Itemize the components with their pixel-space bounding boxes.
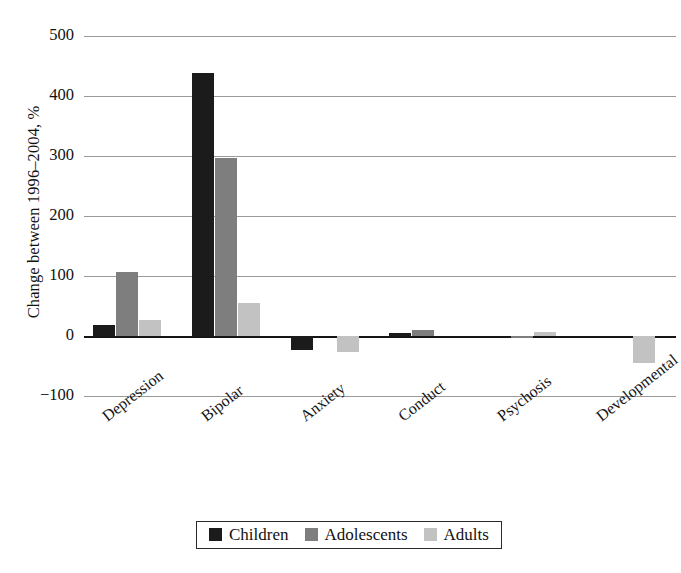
- bar-depression-children: [93, 325, 115, 336]
- y-tick-label: 300: [22, 147, 74, 164]
- bar-psychosis-adolescents: [511, 336, 533, 338]
- plot-area: 5004003002001000−100: [84, 36, 676, 396]
- legend-entry-adolescents: Adolescents: [305, 526, 408, 543]
- legend-label: Adolescents: [325, 526, 408, 543]
- bar-bipolar-adults: [238, 303, 260, 336]
- legend-swatch-adults: [424, 528, 437, 541]
- bar-bipolar-adolescents: [215, 158, 237, 336]
- y-tick-label: −100: [22, 387, 74, 404]
- legend-entry-adults: Adults: [424, 526, 489, 543]
- y-tick-label: 100: [22, 267, 74, 284]
- bar-group-conduct: [389, 36, 457, 396]
- bar-group-anxiety: [291, 36, 359, 396]
- bar-anxiety-children: [291, 336, 313, 350]
- legend: ChildrenAdolescentsAdults: [196, 521, 502, 549]
- bar-depression-adolescents: [116, 272, 138, 336]
- legend-swatch-children: [209, 528, 222, 541]
- bar-group-depression: [93, 36, 161, 396]
- bar-chart: Change between 1996–2004, % 500400300200…: [0, 0, 681, 573]
- bar-conduct-children: [389, 333, 411, 336]
- legend-entry-children: Children: [209, 526, 289, 543]
- legend-swatch-adolescents: [305, 528, 318, 541]
- y-tick-label: 200: [22, 207, 74, 224]
- y-tick-label: 500: [22, 27, 74, 44]
- bar-depression-adults: [139, 320, 161, 336]
- bar-group-bipolar: [192, 36, 260, 396]
- legend-label: Adults: [444, 526, 489, 543]
- y-tick-label: 0: [22, 327, 74, 344]
- legend-label: Children: [229, 526, 289, 543]
- y-tick-label: 400: [22, 87, 74, 104]
- bar-psychosis-adults: [534, 332, 556, 336]
- bar-conduct-adolescents: [412, 330, 434, 336]
- bar-anxiety-adults: [337, 336, 359, 352]
- bar-group-psychosis: [488, 36, 556, 396]
- bar-bipolar-children: [192, 73, 214, 336]
- bar-developmental-adults: [633, 336, 655, 363]
- gridline: [84, 396, 676, 397]
- bar-group-developmental: [587, 36, 655, 396]
